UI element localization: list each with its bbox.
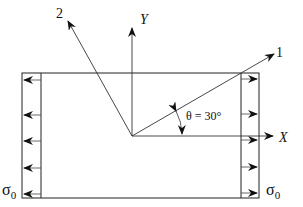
axis-1: [132, 54, 274, 136]
angle-label: θ = 30°: [186, 109, 222, 123]
right-stress-label: σ0: [266, 181, 281, 201]
left-stress-distribution: [24, 73, 41, 198]
axis-1-label: 1: [276, 45, 283, 60]
axis-2: [68, 21, 132, 136]
y-axis-label: Y: [140, 12, 150, 27]
right-stress-distribution: [241, 73, 257, 198]
angle-arc: [176, 111, 182, 134]
plate-rectangle: [22, 73, 259, 198]
stress-element-diagram: Y X 1 2 θ = 30° σ0 σ0: [0, 0, 303, 207]
left-stress-label: σ0: [2, 181, 17, 201]
x-axis-label: X: [278, 130, 288, 145]
axis-2-label: 2: [56, 6, 63, 21]
